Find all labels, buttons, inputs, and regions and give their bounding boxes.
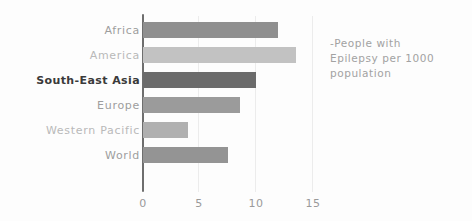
bar-south-east-asia <box>143 72 256 88</box>
bar-world <box>143 147 228 163</box>
category-label-europe: Europe <box>97 100 140 111</box>
x-tick-label-15: 15 <box>305 198 320 209</box>
bar-america <box>143 47 296 63</box>
annotation-line-1: -People with <box>330 36 462 51</box>
plot-area: Africa America South-East Asia Europe We… <box>0 0 472 221</box>
epilepsy-bar-chart: Africa America South-East Asia Europe We… <box>0 0 472 221</box>
bar-africa <box>143 22 278 38</box>
category-label-western-pacific: Western Pacific <box>46 125 140 136</box>
category-label-america: America <box>90 50 140 61</box>
annotation-line-3: population <box>330 66 462 81</box>
category-label-south-east-asia: South-East Asia <box>36 75 140 86</box>
category-label-world: World <box>105 150 140 161</box>
bar-europe <box>143 97 240 113</box>
x-tick-label-10: 10 <box>248 198 263 209</box>
annotation-line-2: Epilepsy per 1000 <box>330 51 462 66</box>
gridline-15 <box>312 16 313 192</box>
bar-western-pacific <box>143 122 188 138</box>
category-label-africa: Africa <box>104 25 140 36</box>
x-tick-label-5: 5 <box>195 198 203 209</box>
x-tick-label-0: 0 <box>139 198 147 209</box>
gridline-10 <box>255 16 256 192</box>
chart-annotation: -People with Epilepsy per 1000 populatio… <box>330 36 462 81</box>
